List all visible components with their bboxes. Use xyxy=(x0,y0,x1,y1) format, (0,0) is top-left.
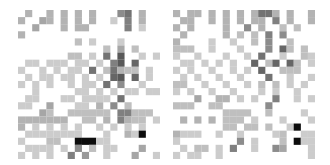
heatmap-cell xyxy=(216,145,223,152)
heatmap-cell xyxy=(75,17,82,24)
heatmap-cell xyxy=(96,124,103,131)
heatmap-cell xyxy=(251,17,258,24)
heatmap-cell xyxy=(173,102,180,109)
heatmap-cell xyxy=(103,109,110,116)
heatmap-cell xyxy=(201,60,208,67)
heatmap-cell xyxy=(25,145,32,152)
heatmap-cell xyxy=(75,24,82,31)
heatmap-cell xyxy=(110,124,117,131)
heatmap-cell xyxy=(230,60,237,67)
heatmap-cell xyxy=(244,67,251,74)
heatmap-cell xyxy=(308,10,315,17)
heatmap-cell xyxy=(230,109,237,116)
heatmap-cell xyxy=(46,145,53,152)
heatmap-cell xyxy=(75,38,82,45)
heatmap-cell xyxy=(117,60,124,67)
heatmap-cell xyxy=(110,60,117,67)
heatmap-cell xyxy=(54,138,61,145)
heatmap-cell xyxy=(258,10,265,17)
heatmap-cell xyxy=(117,53,124,60)
heatmap-cell xyxy=(32,145,39,152)
heatmap-cell xyxy=(265,74,272,81)
heatmap-cell xyxy=(308,138,315,145)
heatmap-cell xyxy=(223,17,230,24)
heatmap-cell xyxy=(46,152,53,159)
heatmap-cell xyxy=(75,109,82,116)
heatmap-cell xyxy=(194,95,201,102)
heatmap-cell xyxy=(223,31,230,38)
heatmap-cell xyxy=(216,95,223,102)
heatmap-cell xyxy=(187,45,194,52)
heatmap-cell xyxy=(287,81,294,88)
heatmap-cell xyxy=(18,81,25,88)
heatmap-cell xyxy=(153,88,160,95)
heatmap-cell xyxy=(209,10,216,17)
heatmap-cell xyxy=(125,17,132,24)
heatmap-cell xyxy=(82,88,89,95)
heatmap-cell xyxy=(46,60,53,67)
heatmap-cell xyxy=(25,116,32,123)
heatmap-cell xyxy=(223,95,230,102)
heatmap-left xyxy=(18,10,160,159)
heatmap-cell xyxy=(180,60,187,67)
heatmap-cell xyxy=(39,17,46,24)
heatmap-cell xyxy=(125,88,132,95)
heatmap-cell xyxy=(139,116,146,123)
heatmap-cell xyxy=(280,45,287,52)
heatmap-cell xyxy=(117,116,124,123)
heatmap-cell xyxy=(61,145,68,152)
heatmap-cell xyxy=(294,60,301,67)
heatmap-cell xyxy=(103,131,110,138)
heatmap-cell xyxy=(187,60,194,67)
heatmap-cell xyxy=(82,152,89,159)
heatmap-cell xyxy=(265,109,272,116)
heatmap-cell xyxy=(187,10,194,17)
heatmap-cell xyxy=(173,45,180,52)
heatmap-cell xyxy=(230,145,237,152)
heatmap-cell xyxy=(96,60,103,67)
heatmap-cell xyxy=(18,124,25,131)
heatmap-cell xyxy=(68,109,75,116)
heatmap-cell xyxy=(301,131,308,138)
heatmap-cell xyxy=(237,74,244,81)
heatmap-cell xyxy=(237,31,244,38)
heatmap-cell xyxy=(201,81,208,88)
heatmap-cell xyxy=(32,81,39,88)
heatmap-cell xyxy=(110,145,117,152)
heatmap-cell xyxy=(280,116,287,123)
heatmap-cell xyxy=(294,95,301,102)
heatmap-cell xyxy=(132,109,139,116)
heatmap-cell xyxy=(209,45,216,52)
heatmap-cell xyxy=(110,102,117,109)
heatmap-cell xyxy=(61,24,68,31)
heatmap-cell xyxy=(194,53,201,60)
heatmap-cell xyxy=(139,24,146,31)
heatmap-cell xyxy=(103,53,110,60)
heatmap-cell xyxy=(82,102,89,109)
heatmap-cell xyxy=(244,124,251,131)
heatmap-cell xyxy=(32,152,39,159)
heatmap-cell xyxy=(117,38,124,45)
heatmap-cell xyxy=(25,74,32,81)
heatmap-cell xyxy=(180,45,187,52)
heatmap-cell xyxy=(75,131,82,138)
heatmap-cell xyxy=(237,131,244,138)
heatmap-cell xyxy=(39,67,46,74)
heatmap-cell xyxy=(209,102,216,109)
heatmap-cell xyxy=(132,152,139,159)
heatmap-cell xyxy=(180,17,187,24)
heatmap-cell xyxy=(251,145,258,152)
heatmap-cell xyxy=(244,24,251,31)
heatmap-cell xyxy=(46,109,53,116)
heatmap-cell xyxy=(153,116,160,123)
heatmap-cell xyxy=(18,67,25,74)
heatmap-cell xyxy=(110,67,117,74)
heatmap-cell xyxy=(294,124,301,131)
heatmap-cell xyxy=(258,67,265,74)
heatmap-cell xyxy=(294,24,301,31)
heatmap-cell xyxy=(75,102,82,109)
heatmap-cell xyxy=(308,17,315,24)
heatmap-cell xyxy=(103,116,110,123)
heatmap-cell xyxy=(308,152,315,159)
heatmap-cell xyxy=(32,88,39,95)
